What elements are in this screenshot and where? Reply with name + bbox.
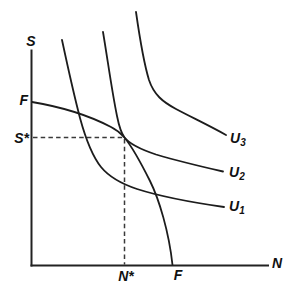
- s-star-label: S*: [14, 130, 29, 146]
- frontier-x-intercept-label: F: [174, 267, 183, 283]
- u2-label-subscript: 2: [238, 171, 245, 182]
- u3-curve-label: U3: [230, 130, 246, 148]
- y-axis-label: S: [26, 33, 36, 49]
- frontier-curve: [32, 102, 173, 265]
- diagram-canvas: S F S* N* F N U3 U2 U1: [0, 0, 289, 294]
- indifference-curve-u1: [62, 40, 224, 207]
- x-axis-label: N: [272, 255, 283, 271]
- n-star-label: N*: [118, 268, 134, 284]
- u1-label-subscript: 1: [239, 205, 245, 216]
- u2-curve-label: U2: [229, 164, 245, 182]
- u1-curve-label: U1: [229, 198, 245, 216]
- indifference-curve-u3: [136, 12, 226, 135]
- u3-label-subscript: 3: [240, 137, 246, 148]
- indifference-curve-diagram: S F S* N* F N U3 U2 U1: [0, 0, 289, 294]
- frontier-y-intercept-label: F: [19, 92, 28, 108]
